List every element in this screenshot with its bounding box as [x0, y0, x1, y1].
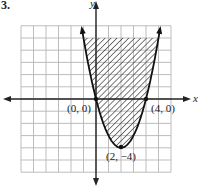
- x-axis-label: x: [192, 92, 198, 104]
- curve-right-arrow-icon: [156, 26, 162, 34]
- origin-label: (0, 0): [67, 102, 91, 115]
- graph-figure: 3. x y (0, 0) (4, 0) (2, −4): [0, 0, 200, 186]
- curve-left-arrow-icon: [80, 26, 86, 34]
- x-axis-right-arrow-icon: [183, 96, 191, 102]
- vertex-point: [119, 145, 123, 149]
- x-axis-left-arrow-icon: [3, 96, 11, 102]
- problem-number: 3.: [1, 0, 10, 12]
- y-axis-label: y: [89, 0, 95, 9]
- origin-point: [94, 97, 98, 101]
- intercept-point: [144, 97, 148, 101]
- y-axis-down-arrow-icon: [93, 178, 99, 186]
- vertex-label: (2, −4): [106, 150, 136, 163]
- intercept-label: (4, 0): [151, 102, 175, 115]
